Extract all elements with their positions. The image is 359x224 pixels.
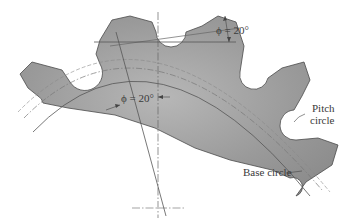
pressure-angle-mid-label: ϕ = 20° (121, 92, 154, 104)
pressure-angle-top-label: ϕ = 20° (216, 24, 249, 36)
pitch-circle-leader (294, 114, 305, 122)
gear-diagram (0, 0, 359, 224)
pitch-circle-label-line1: Pitch (312, 102, 335, 114)
base-circle-label: Base circle (243, 166, 292, 178)
pitch-circle-label-line2: circle (310, 114, 334, 126)
